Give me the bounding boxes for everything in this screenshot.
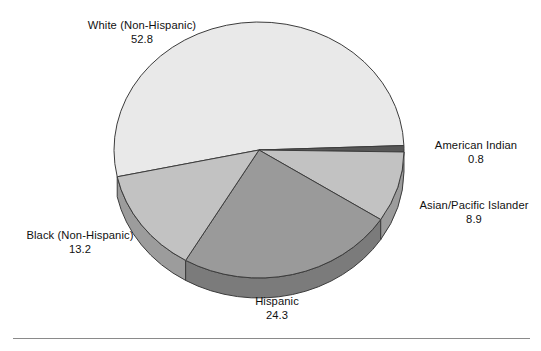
slice-label-asian-pacific: Asian/Pacific Islander 8.9 <box>408 198 540 226</box>
slice-label-hispanic-value: 24.3 <box>212 308 342 322</box>
slice-label-american-indian-name: American Indian <box>414 138 538 152</box>
slice-label-black-name: Black (Non-Hispanic) <box>2 228 158 242</box>
slice-label-white-value: 52.8 <box>62 32 222 46</box>
slice-label-asian-pacific-value: 8.9 <box>408 212 540 226</box>
slice-label-american-indian-value: 0.8 <box>414 152 538 166</box>
pie-chart-figure: White (Non-Hispanic) 52.8 American India… <box>0 0 541 351</box>
slice-label-white-name: White (Non-Hispanic) <box>62 18 222 32</box>
slice-label-white: White (Non-Hispanic) 52.8 <box>62 18 222 46</box>
slice-label-hispanic-name: Hispanic <box>212 294 342 308</box>
footer-rule <box>13 338 530 339</box>
slice-label-hispanic: Hispanic 24.3 <box>212 294 342 322</box>
slice-label-american-indian: American Indian 0.8 <box>414 138 538 166</box>
slice-label-black-value: 13.2 <box>2 242 158 256</box>
slice-label-asian-pacific-name: Asian/Pacific Islander <box>408 198 540 212</box>
slice-label-black: Black (Non-Hispanic) 13.2 <box>2 228 158 256</box>
